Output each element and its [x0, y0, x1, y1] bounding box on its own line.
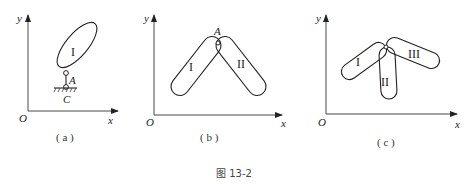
joint-A: [216, 41, 220, 45]
body-I: [51, 16, 104, 73]
body-II-label: II: [237, 57, 245, 71]
x-axis-label: x: [454, 118, 460, 130]
point-A-label: A: [213, 25, 221, 37]
origin-label: O: [19, 112, 27, 124]
x-axis-label: x: [107, 114, 113, 126]
origin-label: O: [146, 116, 154, 128]
panel-c: y O x I II III ( c ): [315, 12, 460, 149]
panel-b-label: ( b ): [200, 131, 219, 144]
body-I-label: I: [189, 60, 193, 74]
panel-a-label: ( a ): [56, 131, 74, 144]
panel-b: y O x I II A ( b ): [143, 12, 286, 144]
panel-c-label: ( c ): [377, 136, 395, 149]
x-axis-label: x: [280, 117, 286, 129]
body-II-label: II: [381, 75, 389, 89]
origin-label: O: [318, 116, 326, 128]
point-A-label: A: [68, 74, 76, 86]
y-axis-label: y: [143, 12, 149, 24]
joint: [384, 45, 388, 49]
body-III-label: III: [408, 47, 420, 61]
y-axis-label: y: [16, 12, 22, 24]
y-axis-label: y: [315, 12, 321, 24]
figure-canvas: y O x I A C ( a ) y O x I: [0, 0, 470, 184]
joint-A: [64, 71, 69, 76]
panel-a: y O x I A C ( a ): [16, 12, 118, 144]
point-C-label: C: [63, 93, 71, 105]
body-I-label: I: [71, 45, 75, 59]
body-I-label: I: [356, 55, 360, 69]
figure-caption: 图 13-2: [216, 168, 252, 179]
